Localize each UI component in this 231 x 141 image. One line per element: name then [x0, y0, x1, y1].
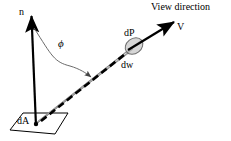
phi-angle-arc: [34, 28, 70, 66]
radiometry-diagram: View direction V dP dw n ϕ dA: [0, 0, 231, 141]
label-v-vector: V: [177, 22, 184, 32]
label-da: dA: [17, 116, 29, 126]
origin-dot: [34, 122, 38, 126]
label-dp: dP: [124, 28, 135, 38]
label-view-direction: View direction: [151, 2, 210, 12]
normal-arrow-n: [32, 16, 37, 126]
label-phi-angle: ϕ: [58, 38, 64, 49]
label-normal-n: n: [19, 7, 24, 17]
label-dw: dw: [121, 60, 133, 70]
phi-angle-arc-pointer: [70, 66, 91, 77]
diagram-canvas: [0, 0, 231, 141]
